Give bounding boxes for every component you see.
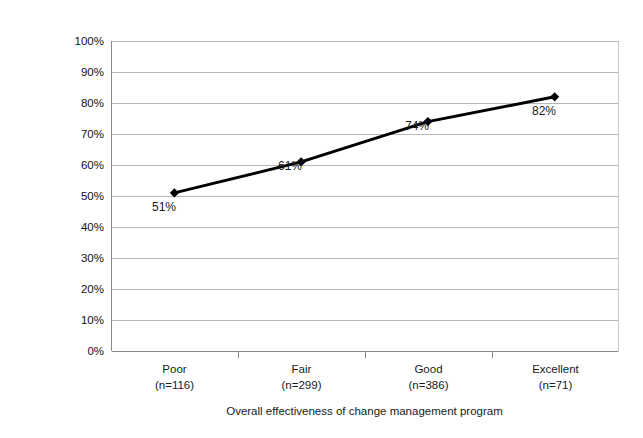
gridline-100 [112, 41, 619, 42]
x-category-good-name: Good [365, 361, 492, 377]
gridline-70 [112, 134, 619, 135]
y-tick-label-50: 50% [56, 190, 104, 202]
data-label-poor: 51% [152, 201, 176, 214]
y-tick-label-40: 40% [56, 221, 104, 233]
y-tick-label-30: 30% [56, 252, 104, 264]
data-label-excellent: 82% [532, 105, 556, 118]
gridline-90 [112, 72, 619, 73]
plot-right-edge [618, 41, 619, 352]
x-axis-title: Overall effectiveness of change manageme… [111, 404, 618, 418]
x-category-excellent-n: (n=71) [492, 377, 619, 393]
gridline-30 [112, 258, 619, 259]
y-tick-label-90: 90% [56, 66, 104, 78]
y-tick-label-10: 10% [56, 314, 104, 326]
x-tick-3 [492, 351, 493, 358]
y-tick-label-60: 60% [56, 159, 104, 171]
line-chart: Percent of respondents that were on or u… [0, 0, 643, 438]
y-tick-label-100: 100% [56, 35, 104, 47]
plot-area [111, 41, 619, 351]
x-category-good-n: (n=386) [365, 377, 492, 393]
y-tick-label-70: 70% [56, 128, 104, 140]
x-category-poor-n: (n=116) [111, 377, 238, 393]
data-label-good: 74% [405, 120, 429, 133]
y-tick-label-80: 80% [56, 97, 104, 109]
x-category-excellent: Excellent (n=71) [492, 361, 619, 393]
x-category-poor: Poor (n=116) [111, 361, 238, 393]
x-category-fair-name: Fair [238, 361, 365, 377]
x-category-fair: Fair (n=299) [238, 361, 365, 393]
gridline-20 [112, 289, 619, 290]
gridline-60 [112, 165, 619, 166]
x-category-fair-n: (n=299) [238, 377, 365, 393]
x-category-good: Good (n=386) [365, 361, 492, 393]
x-category-excellent-name: Excellent [492, 361, 619, 377]
y-tick-label-0: 0% [56, 345, 104, 357]
y-tick-label-20: 20% [56, 283, 104, 295]
data-label-fair: 61% [278, 160, 302, 173]
y-axis-tick-labels: 100% 90% 80% 70% 60% 50% 40% 30% 20% 10%… [56, 0, 104, 438]
x-tick-2 [365, 351, 366, 358]
x-tick-1 [238, 351, 239, 358]
gridline-40 [112, 227, 619, 228]
gridline-50 [112, 196, 619, 197]
x-category-poor-name: Poor [111, 361, 238, 377]
gridline-10 [112, 320, 619, 321]
